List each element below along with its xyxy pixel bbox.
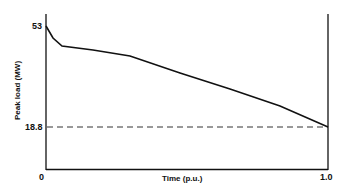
y-tick-53: 53 — [32, 21, 42, 31]
x-tick-0: 0 — [39, 172, 44, 182]
load-curve — [46, 26, 328, 127]
y-tick-18-8: 18.8 — [25, 122, 43, 132]
chart-plot-area — [0, 0, 344, 192]
x-tick-1: 1.0 — [320, 172, 333, 182]
x-axis-label: Time (p.u.) — [162, 174, 202, 183]
y-axis-label: Peak load (MW) — [13, 56, 22, 126]
